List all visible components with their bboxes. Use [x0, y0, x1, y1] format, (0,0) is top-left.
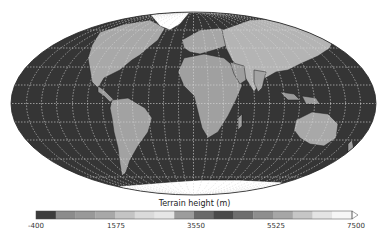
colorbar-tick: 5525 [267, 222, 285, 230]
colorbar-tick: -400 [28, 222, 44, 230]
colorbar-tick: 3550 [187, 222, 205, 230]
colorbar-segment [293, 211, 313, 219]
colorbar-segment [95, 211, 115, 219]
colorbar-tick: 1575 [107, 222, 125, 230]
colorbar [36, 211, 352, 219]
colorbar-segment [253, 211, 273, 219]
colorbar-segment [155, 211, 175, 219]
colorbar-segment [273, 211, 293, 219]
colorbar-segment [174, 211, 194, 219]
colorbar-segment [115, 211, 135, 219]
colorbar-label: Terrain height (m) [0, 199, 389, 208]
colorbar-segment [56, 211, 76, 219]
colorbar-segment [194, 211, 214, 219]
colorbar-segment [313, 211, 333, 219]
colorbar-segment [76, 211, 96, 219]
colorbar-segment [234, 211, 254, 219]
colorbar-tick: 7500 [347, 222, 365, 230]
colorbar-extend-arrow [352, 211, 358, 219]
colorbar-segment [36, 211, 56, 219]
colorbar-segment [135, 211, 155, 219]
colorbar-segment [332, 211, 352, 219]
colorbar-segment [214, 211, 234, 219]
